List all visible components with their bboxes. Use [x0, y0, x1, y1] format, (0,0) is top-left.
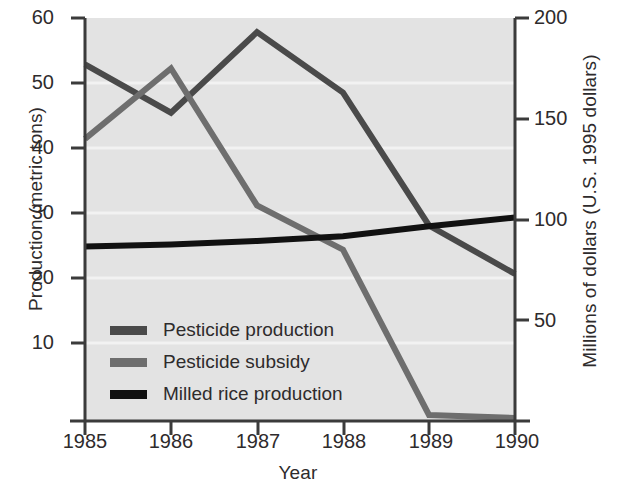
- plot-area: Pesticide production Pesticide subsidy M…: [0, 0, 624, 490]
- legend-swatch-pesticide-subsidy: [110, 358, 147, 367]
- chart-figure: Production (metric tons) Millions of dol…: [0, 0, 624, 490]
- legend-label-milled-rice-production: Milled rice production: [163, 383, 343, 404]
- tick-marks-right: [515, 18, 529, 320]
- chart-legend: Pesticide production Pesticide subsidy M…: [110, 319, 343, 404]
- legend-label-pesticide-subsidy: Pesticide subsidy: [163, 351, 310, 372]
- tick-marks-left: [71, 18, 85, 343]
- legend-swatch-pesticide-production: [110, 326, 147, 335]
- legend-swatch-milled-rice-production: [110, 390, 147, 399]
- legend-label-pesticide-production: Pesticide production: [163, 319, 334, 340]
- tick-marks-x: [85, 421, 515, 435]
